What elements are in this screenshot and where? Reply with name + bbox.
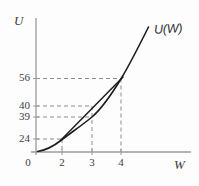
- utility-curve: [38, 27, 149, 152]
- x-tick-label-4: 4: [114, 156, 128, 168]
- utility-function-figure: U W 56 40 39 24 0 2 3 4 U(W): [0, 0, 199, 186]
- y-tick-label-24: 24: [2, 132, 30, 144]
- y-axis-label: U: [14, 13, 24, 29]
- x-axis-label: W: [174, 157, 185, 173]
- guide-lines: [36, 79, 121, 153]
- curve-series-label: U(W): [154, 21, 183, 36]
- y-tick-label-39: 39: [2, 110, 30, 122]
- axes: [31, 18, 191, 155]
- y-tick-label-56: 56: [2, 71, 30, 83]
- x-tick-label-2: 2: [55, 156, 69, 168]
- x-tick-label-0: 0: [21, 156, 35, 168]
- x-tick-label-3: 3: [85, 156, 99, 168]
